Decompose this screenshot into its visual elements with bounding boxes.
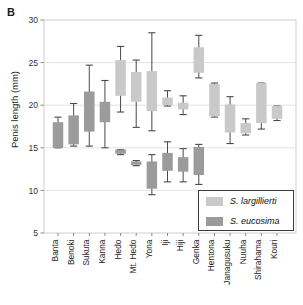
box-plot-item [256,83,267,129]
box-plot-item [147,33,158,131]
box-plot-item [178,96,189,115]
legend: S. largillierti S. eucosima [198,190,294,231]
x-tick-label: Banta [50,239,60,261]
x-tick-label: Kanna [97,239,107,264]
x-tick-label: Mt. Hedo [128,239,138,273]
legend-label-eucosima: S. eucosima [230,216,280,226]
box-plot-item [209,83,220,117]
box-plot-item [194,144,205,184]
x-tick-label: Janagusuku [222,239,232,285]
x-tick-label: Sukuta [81,239,91,265]
box-plot-canvas: 51015202530BantaBenokiSukutaKannaHedoMt.… [0,0,303,305]
box-plot-item [225,97,236,144]
y-tick-label: 15 [28,143,38,153]
box-plot-item [53,117,64,148]
box-plot-item [68,103,79,146]
box-plot-item [147,155,158,195]
x-tick-label: Hentona [206,239,216,271]
legend-swatch-largillierti [206,197,223,206]
box-plot-item [115,150,126,155]
x-tick-label: Benoki [66,239,76,265]
legend-swatch-eucosima [206,217,223,226]
x-tick-label: Hedo [113,239,123,259]
y-tick-label: 25 [28,58,38,68]
box-plot-item [131,161,142,166]
y-tick-label: 5 [33,228,38,238]
x-tick-label: Yona [144,239,154,258]
x-tick-label: Iji [160,239,170,245]
x-tick-label: Shirahama [253,239,263,280]
box-plot-item [194,35,205,78]
box-plot-item [131,60,142,127]
legend-item-largillierti: S. largillierti [199,191,293,211]
box-plot-item [162,91,173,106]
box-plot-item [100,80,111,147]
box-plot-item [178,149,189,182]
box-plot-item [115,46,126,112]
x-tick-label: Hiji [175,239,185,251]
y-tick-label: 30 [28,15,38,25]
x-tick-label: Nuuha [238,239,248,264]
legend-label-largillierti: S. largillierti [230,196,277,206]
box-plot-item [272,106,283,120]
x-tick-label: Kouri [269,239,279,259]
y-tick-label: 10 [28,186,38,196]
legend-item-eucosima: S. eucosima [199,211,293,231]
box-plot-item [84,65,95,146]
y-tick-label: 20 [28,100,38,110]
x-tick-label: Genka [191,239,201,264]
figure-panel-b: B Penis length (mm) 51015202530BantaBeno… [0,0,303,305]
box-plot-item [240,119,251,135]
